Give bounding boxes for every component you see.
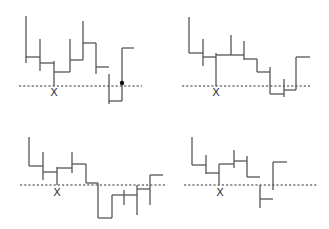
x-marker: X	[216, 186, 224, 199]
x-marker: X	[53, 186, 61, 199]
panel-top-right: X	[182, 17, 310, 99]
dot-marker	[120, 81, 124, 85]
step-diagram: X X X X	[0, 0, 329, 229]
x-marker: X	[212, 86, 220, 99]
x-marker: X	[50, 86, 58, 99]
panel-bottom-right: X	[184, 137, 318, 208]
panel-bottom-left: X	[20, 137, 165, 218]
panel-top-left: X	[19, 16, 142, 104]
